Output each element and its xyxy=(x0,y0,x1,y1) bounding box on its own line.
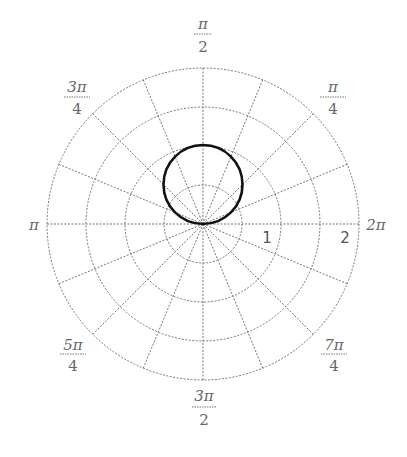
angle-label-pi: π xyxy=(28,216,40,234)
grid-spoke xyxy=(93,224,203,334)
svg-text:4: 4 xyxy=(328,100,338,118)
angle-label-3pi-over-2: 3π 2 xyxy=(192,387,216,429)
svg-text:7π: 7π xyxy=(324,336,345,354)
svg-text:4: 4 xyxy=(72,100,82,118)
svg-text:2: 2 xyxy=(198,38,208,56)
radial-label-1: 1 xyxy=(262,229,272,247)
angle-label-pi-over-2: π 2 xyxy=(194,15,212,56)
grid-spoke xyxy=(203,224,313,334)
grid-spoke xyxy=(143,224,203,368)
angle-label-5pi-over-4: 5π 4 xyxy=(60,336,86,375)
angle-label-2pi: 2π xyxy=(365,216,387,234)
svg-text:π: π xyxy=(327,78,339,96)
angle-label-7pi-over-4: 7π 4 xyxy=(321,336,347,375)
svg-text:4: 4 xyxy=(68,357,78,375)
grid-spoke xyxy=(203,164,347,224)
grid-spoke xyxy=(93,114,203,224)
svg-text:4: 4 xyxy=(329,357,339,375)
svg-text:2: 2 xyxy=(199,411,209,429)
grid-spoke xyxy=(203,114,313,224)
svg-text:3π: 3π xyxy=(194,387,215,405)
svg-text:5π: 5π xyxy=(63,336,84,354)
grid-spoke xyxy=(203,80,263,224)
radial-label-2: 2 xyxy=(340,229,350,247)
svg-text:3π: 3π xyxy=(67,78,88,96)
grid-spoke xyxy=(203,224,347,284)
svg-text:π: π xyxy=(197,15,209,33)
polar-graph: π 2 3π 4 π 4 π 2π 5π 4 7π 4 3π 2 1 2 xyxy=(0,0,407,457)
grid-spoke xyxy=(203,224,263,368)
angle-label-3pi-over-4: 3π 4 xyxy=(64,78,90,118)
grid-spoke xyxy=(59,164,203,224)
grid-spoke xyxy=(59,224,203,284)
angle-label-pi-over-4: π 4 xyxy=(320,78,346,118)
grid-spoke xyxy=(143,80,203,224)
